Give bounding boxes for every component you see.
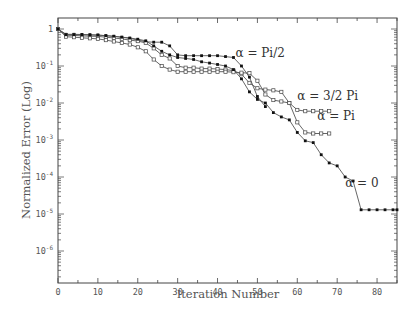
data-point xyxy=(272,111,275,114)
x-tick-label: 0 xyxy=(55,287,60,297)
data-point xyxy=(184,66,187,69)
x-tick-label: 20 xyxy=(133,287,143,297)
data-point xyxy=(104,34,107,37)
y-tick-label: 1 xyxy=(48,24,53,34)
data-point xyxy=(328,132,331,135)
data-point xyxy=(272,98,275,101)
x-tick-label: 80 xyxy=(372,287,382,297)
data-point xyxy=(152,41,155,44)
data-point xyxy=(264,88,267,91)
data-point xyxy=(96,37,99,40)
data-point xyxy=(208,62,211,65)
data-point xyxy=(296,131,299,134)
data-point xyxy=(160,53,163,56)
data-point xyxy=(280,90,283,93)
data-point xyxy=(392,208,395,211)
data-point xyxy=(184,57,187,60)
data-point xyxy=(65,33,68,36)
error-convergence-chart: 01020304050607080 110-110-210-310-410-51… xyxy=(0,0,418,315)
data-point xyxy=(88,37,91,40)
data-point xyxy=(200,60,203,63)
data-point xyxy=(224,55,227,58)
series-label: α = Pi/2 xyxy=(235,46,284,60)
data-point xyxy=(224,70,227,73)
y-tick-label: 10-4 xyxy=(36,170,54,182)
data-point xyxy=(192,70,195,73)
y-axis-title: Normalized Error (Log) xyxy=(19,81,33,219)
data-point xyxy=(136,46,139,49)
data-point xyxy=(160,64,163,67)
data-point xyxy=(320,153,323,156)
data-point xyxy=(240,71,243,74)
data-point xyxy=(96,34,99,37)
data-point xyxy=(384,208,387,211)
data-point xyxy=(128,43,131,46)
data-point xyxy=(320,132,323,135)
series-labels: α = Pi/2α = 3/2 Piα = Piα = 0 xyxy=(235,46,378,189)
data-point xyxy=(264,93,267,96)
data-point xyxy=(232,68,235,71)
data-point xyxy=(240,77,243,80)
data-point xyxy=(248,90,251,93)
data-point xyxy=(152,58,155,61)
y-tick-label: 10-1 xyxy=(36,59,54,71)
data-point xyxy=(280,116,283,119)
data-point xyxy=(396,208,399,211)
series-label: α = 3/2 Pi xyxy=(297,89,358,103)
y-axis: 110-110-210-310-410-510-6 xyxy=(36,24,397,277)
data-point xyxy=(304,110,307,113)
data-point xyxy=(296,121,299,124)
data-point xyxy=(184,70,187,73)
data-point xyxy=(248,72,251,75)
y-tick-label: 10-2 xyxy=(36,96,54,108)
data-point xyxy=(160,50,163,53)
data-point xyxy=(200,54,203,57)
data-point xyxy=(256,79,259,82)
y-tick-label: 10-5 xyxy=(36,207,54,219)
data-point xyxy=(120,36,123,39)
data-point xyxy=(200,67,203,70)
data-point xyxy=(168,68,171,71)
data-point xyxy=(208,67,211,70)
data-point xyxy=(312,132,315,135)
data-point xyxy=(256,98,259,101)
data-point xyxy=(312,141,315,144)
data-point xyxy=(224,65,227,68)
x-tick-label: 60 xyxy=(292,287,302,297)
plot-border xyxy=(58,18,397,283)
data-point xyxy=(192,58,195,61)
data-point xyxy=(208,54,211,57)
data-point xyxy=(288,101,291,104)
data-point xyxy=(80,36,83,39)
data-point xyxy=(232,56,235,59)
data-point xyxy=(328,162,331,165)
data-point xyxy=(296,108,299,111)
data-point xyxy=(144,39,147,42)
data-point xyxy=(336,164,339,167)
data-point xyxy=(152,44,155,47)
data-point xyxy=(208,70,211,73)
data-point xyxy=(272,89,275,92)
x-tick-label: 70 xyxy=(332,287,342,297)
data-point xyxy=(57,28,60,31)
data-point xyxy=(256,95,259,98)
data-point xyxy=(136,38,139,41)
data-point xyxy=(81,33,84,36)
data-point xyxy=(216,63,219,66)
series-label: α = 0 xyxy=(345,176,378,190)
data-point xyxy=(248,76,251,79)
data-point xyxy=(248,81,251,84)
data-point xyxy=(368,208,371,211)
data-point xyxy=(128,37,131,40)
data-point xyxy=(200,70,203,73)
y-tick-label: 10-6 xyxy=(36,244,54,256)
data-point xyxy=(264,102,267,105)
data-point xyxy=(168,57,171,60)
data-point xyxy=(89,34,92,37)
data-point xyxy=(216,70,219,73)
data-point xyxy=(160,41,163,44)
data-point xyxy=(176,64,179,67)
data-point xyxy=(176,70,179,73)
data-point xyxy=(176,53,179,56)
data-point xyxy=(176,56,179,59)
